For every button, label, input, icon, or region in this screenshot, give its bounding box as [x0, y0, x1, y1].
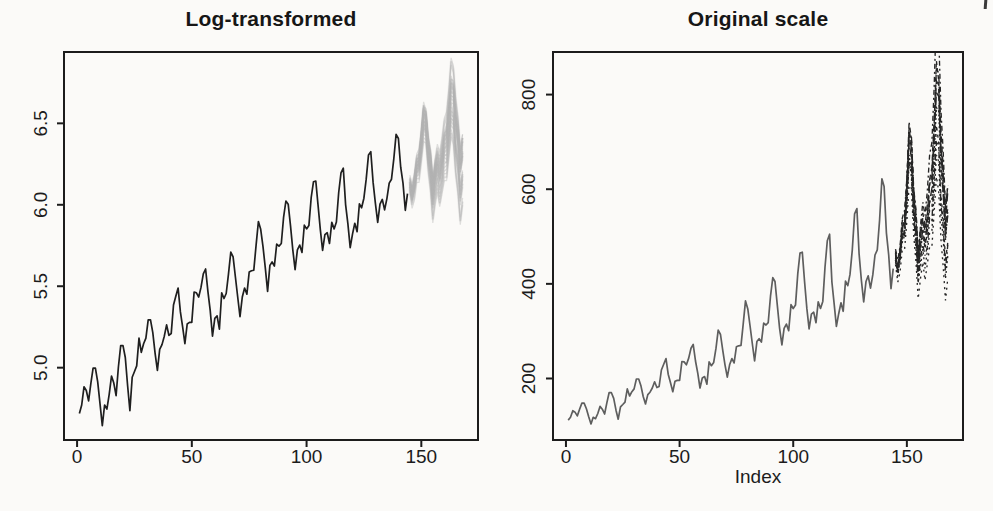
x-tick-label: 0 — [72, 446, 83, 467]
plots-canvas: 0501001505.05.56.06.50501001502004006008… — [0, 0, 993, 511]
x-tick-label: 150 — [405, 446, 437, 467]
y-tick-label: 200 — [518, 363, 539, 395]
y-tick-label: 5.0 — [30, 354, 51, 380]
y-tick-label: 5.5 — [30, 273, 51, 299]
x-tick-label: 100 — [777, 446, 809, 467]
y-tick-label: 6.0 — [30, 192, 51, 218]
x-tick-label: 0 — [561, 446, 572, 467]
two-panel-figure: Log-transformed Original scale 050100150… — [0, 0, 993, 511]
y-tick-label: 600 — [518, 173, 539, 205]
y-tick-label: 6.5 — [30, 110, 51, 136]
x-tick-label: 100 — [291, 446, 323, 467]
x-tick-label: 150 — [891, 446, 923, 467]
x-tick-label: 50 — [181, 446, 202, 467]
observed-series-line — [568, 179, 893, 424]
x-tick-label: 50 — [669, 446, 690, 467]
y-tick-label: 400 — [518, 268, 539, 300]
simulated-forecast-path — [896, 155, 948, 282]
y-tick-label: 800 — [518, 79, 539, 111]
x-axis-label-index: Index — [553, 466, 963, 488]
plot-box — [64, 52, 478, 440]
observed-series-line — [79, 134, 407, 425]
page-edge-artifact — [984, 0, 988, 9]
